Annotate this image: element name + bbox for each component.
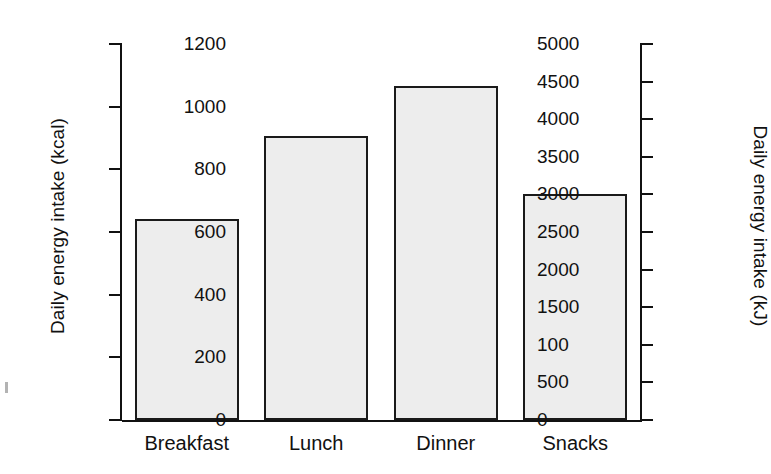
y-tick-label-right: 4500 [537,72,617,91]
y-tick-label-right: 4000 [537,109,617,128]
y-tick-label-right: 0 [537,410,617,429]
bar [135,219,239,420]
y-tick-right [640,344,653,346]
scan-speckle [5,382,8,393]
y-tick-right [640,156,653,158]
y-tick-label-right: 5000 [537,34,617,53]
y-tick-right [640,43,653,45]
x-category-label: Breakfast [117,432,257,454]
y-tick-label-left: 1200 [146,34,226,53]
y-axis-title-right: Daily energy intake (kJ) [749,76,771,376]
bar [264,136,368,420]
y-tick-right [640,231,653,233]
y-tick-label-right: 3000 [537,184,617,203]
y-tick-label-left: 800 [146,159,226,178]
y-tick-left [109,231,122,233]
y-tick-right [640,419,653,421]
y-axis-title-left: Daily energy intake (kcal) [47,76,69,376]
x-category-label: Lunch [246,432,386,454]
y-tick-label-left: 1000 [146,97,226,116]
y-tick-label-right: 2000 [537,260,617,279]
y-tick-left [109,419,122,421]
y-tick-label-right: 3500 [537,147,617,166]
y-tick-left [109,168,122,170]
y-tick-label-left: 200 [146,347,226,366]
x-category-label: Dinner [376,432,516,454]
y-tick-label-left: 0 [146,410,226,429]
y-tick-label-left: 600 [146,222,226,241]
y-tick-left [109,43,122,45]
y-tick-label-right: 2500 [537,222,617,241]
y-tick-label-right: 500 [537,372,617,391]
y-tick-left [109,356,122,358]
y-tick-right [640,193,653,195]
bar [394,86,498,420]
y-tick-right [640,269,653,271]
y-tick-right [640,381,653,383]
y-tick-label-right: 1500 [537,297,617,316]
y-tick-right [640,81,653,83]
y-tick-right [640,306,653,308]
x-category-label: Snacks [505,432,645,454]
y-tick-left [109,106,122,108]
y-tick-right [640,118,653,120]
y-tick-label-right: 100 [537,335,617,354]
y-tick-label-left: 400 [146,285,226,304]
y-tick-left [109,294,122,296]
